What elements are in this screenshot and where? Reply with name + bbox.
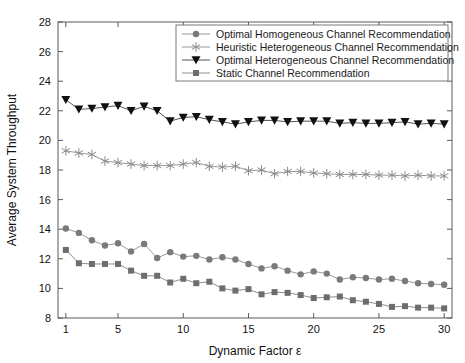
data-point-marker xyxy=(402,303,408,309)
x-tick-label: 25 xyxy=(373,323,385,335)
legend-item-2[interactable]: Optimal Heterogeneous Channel Recommenda… xyxy=(182,54,454,66)
data-point-marker xyxy=(363,275,369,281)
data-point-marker xyxy=(63,225,69,231)
x-tick-label: 30 xyxy=(438,323,450,335)
data-point-marker xyxy=(232,256,238,262)
legend-label: Optimal Heterogeneous Channel Recommenda… xyxy=(216,54,454,66)
data-point-marker xyxy=(324,294,330,300)
legend-label: Optimal Homogeneous Channel Recommendati… xyxy=(216,28,451,40)
data-point-marker xyxy=(415,305,421,311)
data-point-marker xyxy=(102,242,108,248)
y-tick-label: 10 xyxy=(39,282,51,294)
data-point-marker xyxy=(285,290,291,296)
y-tick-label: 14 xyxy=(39,223,51,235)
data-point-marker xyxy=(284,267,290,273)
y-tick-label: 8 xyxy=(45,312,51,324)
y-axis-title: Average System Throughput xyxy=(5,93,19,246)
data-point-marker xyxy=(297,271,303,277)
legend-label: Heuristic Heterogeneous Channel Recommen… xyxy=(216,41,459,53)
legend-item-1[interactable]: Heuristic Heterogeneous Channel Recommen… xyxy=(182,41,459,53)
series-line xyxy=(66,151,444,176)
data-point-marker xyxy=(324,270,330,276)
data-point-marker xyxy=(311,268,317,274)
series-line xyxy=(66,228,444,284)
y-tick-label: 18 xyxy=(39,164,51,176)
data-point-marker xyxy=(115,261,121,267)
series-line xyxy=(66,100,444,124)
data-point-marker xyxy=(259,291,265,297)
data-point-marker xyxy=(206,256,212,262)
data-point-marker xyxy=(231,120,240,128)
series-1 xyxy=(62,146,449,181)
data-point-marker xyxy=(193,253,199,259)
data-point-marker xyxy=(389,276,395,282)
data-point-marker xyxy=(350,297,356,303)
data-point-marker xyxy=(89,261,95,267)
data-point-marker xyxy=(232,288,238,294)
data-point-marker xyxy=(76,230,82,236)
data-point-marker xyxy=(389,304,395,310)
y-tick-label: 24 xyxy=(39,75,51,87)
data-point-marker xyxy=(337,294,343,300)
data-point-marker xyxy=(193,280,199,286)
legend-marker-sample xyxy=(193,70,199,76)
y-tick-label: 22 xyxy=(39,105,51,117)
chart-figure: 810121416182022242628151015202530Dynamic… xyxy=(0,0,465,363)
series-2 xyxy=(61,96,448,129)
y-tick-label: 28 xyxy=(39,16,51,28)
data-point-marker xyxy=(428,305,434,311)
data-point-marker xyxy=(61,96,70,104)
data-point-marker xyxy=(127,107,136,115)
data-point-marker xyxy=(350,274,356,280)
x-tick-label: 5 xyxy=(115,323,121,335)
data-point-marker xyxy=(128,268,134,274)
data-point-marker xyxy=(166,117,175,125)
data-point-marker xyxy=(63,247,69,253)
data-point-marker xyxy=(167,279,173,285)
data-point-marker xyxy=(402,278,408,284)
data-point-marker xyxy=(298,292,304,298)
data-point-marker xyxy=(141,273,147,279)
data-point-marker xyxy=(128,248,134,254)
data-point-marker xyxy=(258,265,264,271)
data-point-marker xyxy=(441,305,447,311)
data-point-marker xyxy=(76,260,82,266)
data-point-marker xyxy=(206,279,212,285)
data-point-marker xyxy=(102,261,108,267)
data-point-marker xyxy=(154,255,160,261)
data-point-marker xyxy=(311,295,317,301)
throughput-line-chart: 810121416182022242628151015202530Dynamic… xyxy=(0,0,465,363)
data-point-marker xyxy=(363,299,369,305)
data-point-marker xyxy=(271,263,277,269)
x-tick-label: 15 xyxy=(242,323,254,335)
data-point-marker xyxy=(89,237,95,243)
y-tick-label: 20 xyxy=(39,134,51,146)
y-tick-label: 26 xyxy=(39,46,51,58)
legend-label: Static Channel Recommendation xyxy=(216,67,370,79)
data-point-marker xyxy=(141,241,147,247)
legend-marker-sample xyxy=(193,31,199,37)
data-point-marker xyxy=(154,273,160,279)
x-tick-label: 10 xyxy=(177,323,189,335)
x-tick-label: 1 xyxy=(63,323,69,335)
data-point-marker xyxy=(167,249,173,255)
data-point-marker xyxy=(415,280,421,286)
x-axis-title: Dynamic Factor ε xyxy=(209,344,302,358)
data-point-marker xyxy=(428,281,434,287)
data-point-marker xyxy=(245,286,251,292)
x-tick-label: 20 xyxy=(308,323,320,335)
data-point-marker xyxy=(219,285,225,291)
data-point-marker xyxy=(180,253,186,259)
y-tick-label: 16 xyxy=(39,194,51,206)
data-point-marker xyxy=(376,301,382,307)
series-0 xyxy=(63,225,448,288)
data-point-marker xyxy=(140,103,149,111)
data-point-marker xyxy=(115,240,121,246)
legend-item-0[interactable]: Optimal Homogeneous Channel Recommendati… xyxy=(182,28,451,40)
data-point-marker xyxy=(272,289,278,295)
data-point-marker xyxy=(376,276,382,282)
data-point-marker xyxy=(441,282,447,288)
data-point-marker xyxy=(219,254,225,260)
data-point-marker xyxy=(245,261,251,267)
data-point-marker xyxy=(180,276,186,282)
